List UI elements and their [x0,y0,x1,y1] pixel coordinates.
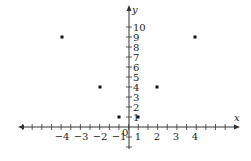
y-tick-label: 9 [133,32,139,43]
data-point [99,86,102,89]
y-axis-label: y [131,4,138,15]
data-point [137,116,140,119]
y-tick-label: 3 [133,92,139,103]
x-tick-label: −4 [55,131,70,142]
y-tick-label: 7 [133,52,139,63]
data-point [194,36,197,39]
x-tick-label: −1 [112,131,127,142]
x-axis-right-arrow-icon [234,125,240,130]
x-tick-label: 4 [192,131,198,142]
plot-area: xy0−4−3−2−1123412345678910 [0,0,251,161]
y-tick-label: 4 [133,82,139,93]
y-tick-label: 6 [133,62,139,73]
x-axis-label: x [234,112,240,123]
data-point [118,116,121,119]
x-tick-label: 2 [154,131,160,142]
x-tick-label: 1 [135,131,141,142]
x-tick-label: −2 [93,131,108,142]
data-point [61,36,64,39]
x-axis-left-arrow-icon [18,125,24,130]
y-tick-label: 5 [133,72,139,83]
scatter-chart: xy0−4−3−2−1123412345678910 [0,0,251,161]
x-tick-label: 3 [173,131,179,142]
y-axis-up-arrow-icon [127,5,132,11]
data-point [156,86,159,89]
y-tick-label: 2 [133,102,139,113]
x-tick-label: −3 [74,131,89,142]
y-tick-label: 10 [133,22,146,33]
y-tick-label: 8 [133,42,139,53]
